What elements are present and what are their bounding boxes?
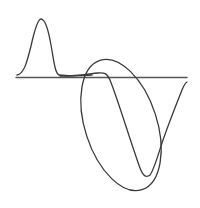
diagram-canvas [0,0,200,208]
waveform-diagram [0,0,200,208]
highlight-ellipse [66,49,177,201]
gaussian-pulse [17,19,92,76]
waveform-trough [60,73,187,176]
